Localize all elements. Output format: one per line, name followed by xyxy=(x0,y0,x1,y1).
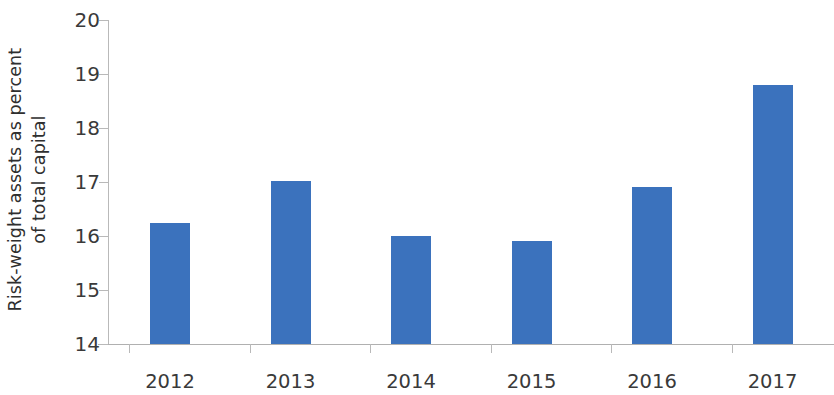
y-tick-mark xyxy=(99,128,108,129)
bar xyxy=(632,187,672,344)
bar xyxy=(512,241,552,344)
y-tick-label: 17 xyxy=(75,172,100,192)
x-axis-label: 2016 xyxy=(602,372,702,392)
y-tick-mark xyxy=(99,236,108,237)
x-axis-label: 2015 xyxy=(482,372,582,392)
y-tick-mark xyxy=(99,290,108,291)
y-axis-title-line-1: Risk-weight assets as percent xyxy=(4,48,28,312)
x-tick-mark xyxy=(129,344,130,353)
y-tick-label: 14 xyxy=(75,334,100,354)
x-axis-label: 2017 xyxy=(723,372,823,392)
x-tick-mark xyxy=(250,344,251,353)
bar xyxy=(753,85,793,344)
x-tick-mark xyxy=(370,344,371,353)
y-axis-title: Risk-weight assets as percent of total c… xyxy=(0,0,56,360)
bar xyxy=(391,236,431,344)
y-axis-line xyxy=(108,20,109,345)
y-tick-label: 15 xyxy=(75,280,100,300)
x-axis-line xyxy=(98,344,834,345)
y-tick-mark xyxy=(99,74,108,75)
bar xyxy=(150,223,190,345)
x-axis-label: 2012 xyxy=(120,372,220,392)
y-tick-label: 20 xyxy=(75,10,100,30)
x-tick-mark xyxy=(491,344,492,353)
plot-area: 14151617181920 201220132014201520162017 xyxy=(108,20,834,344)
y-tick-label: 19 xyxy=(75,64,100,84)
x-axis-label: 2013 xyxy=(241,372,341,392)
bar xyxy=(271,181,311,344)
y-tick-mark xyxy=(99,344,108,345)
bar-chart: Risk-weight assets as percent of total c… xyxy=(0,0,834,395)
y-tick-mark xyxy=(99,20,108,21)
y-tick-label: 18 xyxy=(75,118,100,138)
y-tick-mark xyxy=(99,182,108,183)
x-tick-mark xyxy=(732,344,733,353)
x-tick-mark xyxy=(611,344,612,353)
y-axis-title-line-2: of total capital xyxy=(28,48,52,312)
x-axis-label: 2014 xyxy=(361,372,461,392)
y-tick-label: 16 xyxy=(75,226,100,246)
